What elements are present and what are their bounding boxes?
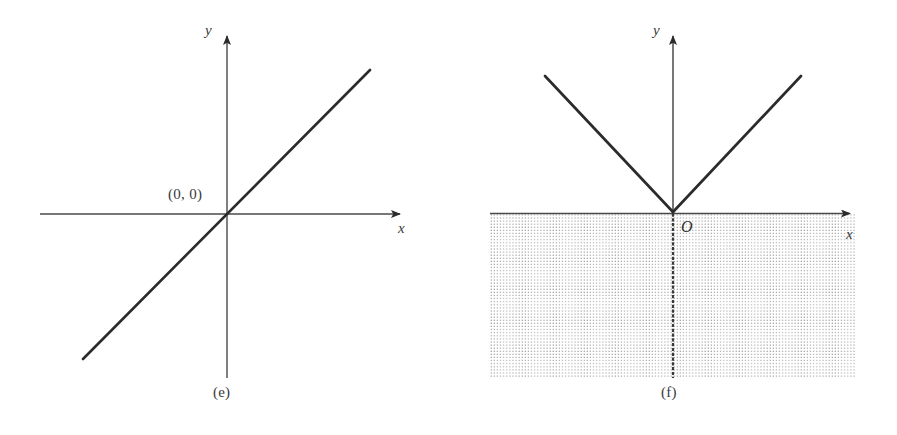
abs-graph-left-arm [545,76,673,212]
panel-e: y x (0, 0) (e) [0,0,450,435]
origin-point-label-e: (0, 0) [168,186,202,203]
x-axis-label-f: x [846,226,853,243]
abs-graph-right-arm [673,76,801,212]
panel-e-graph [0,0,450,435]
panel-f: y x O (f) [450,0,897,435]
panel-caption-e: (e) [213,384,230,401]
panel-f-graph [450,0,897,435]
y-axis-label-f: y [653,22,660,39]
panel-caption-f: (f) [661,384,677,401]
origin-label-f: O [681,218,693,236]
y-axis-label-e: y [205,22,212,39]
figure-root: y x (0, 0) (e) [0,0,897,435]
x-axis-label-e: x [398,220,405,237]
